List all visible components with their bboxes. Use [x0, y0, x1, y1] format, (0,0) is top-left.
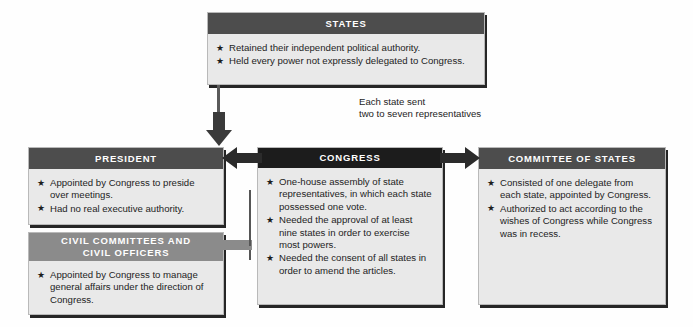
list-item: ★ Appointed by Congress to manage genera… [37, 269, 214, 306]
star-icon: ★ [37, 202, 45, 215]
box-congress-bullet-list: ★ One-house assembly of state representa… [266, 176, 433, 277]
list-item: ★ Appointed by Congress to preside over … [37, 177, 214, 202]
box-states-title: STATES [208, 13, 484, 34]
star-icon: ★ [216, 42, 224, 55]
list-item-text: Needed the approval of at least nine sta… [279, 214, 412, 250]
box-congress: CONGRESS ★ One-house assembly of state r… [257, 147, 443, 305]
box-congress-title: CONGRESS [258, 148, 442, 168]
connector-states-congress-arrow [205, 112, 233, 148]
box-states-body: ★ Retained their independent political a… [208, 34, 484, 77]
box-president: PRESIDENT ★ Appointed by Congress to pre… [28, 147, 224, 225]
box-committee-of-states-body: ★ Consisted of one delegate from each st… [479, 169, 665, 249]
list-item: ★ Consisted of one delegate from each st… [487, 177, 656, 202]
list-item-text: Retained their independent political aut… [229, 42, 420, 53]
star-icon: ★ [266, 176, 274, 189]
box-civil-committees-bullet-list: ★ Appointed by Congress to manage genera… [37, 269, 214, 306]
star-icon: ★ [216, 55, 224, 68]
list-item-text: Appointed by Congress to preside over me… [50, 177, 195, 200]
list-item-text: One-house assembly of state representati… [279, 176, 432, 212]
list-item: ★ Held every power not expressly delegat… [216, 55, 475, 67]
list-item: ★ Had no real executive authority. [37, 203, 214, 215]
list-item-text: Appointed by Congress to manage general … [50, 269, 203, 305]
star-icon: ★ [487, 202, 495, 215]
connector-congress-civil-stub [249, 190, 251, 246]
box-committee-of-states-bullet-list: ★ Consisted of one delegate from each st… [487, 177, 656, 240]
connector-congress-committee-arrow [440, 146, 480, 170]
list-item: ★ Retained their independent political a… [216, 42, 475, 54]
list-item-text: Had no real executive authority. [50, 203, 184, 214]
connector-caption-states-congress: Each state sent two to seven representat… [359, 96, 549, 121]
box-committee-of-states-title: COMMITTEE OF STATES [479, 148, 665, 169]
list-item-text: Held every power not expressly delegated… [229, 55, 465, 66]
star-icon: ★ [37, 269, 45, 282]
diagram-canvas: STATES ★ Retained their independent poli… [0, 0, 693, 327]
connector-congress-civil-arrow [190, 234, 252, 256]
list-item-text: Consisted of one delegate from each stat… [500, 177, 651, 200]
box-committee-of-states: COMMITTEE OF STATES ★ Consisted of one d… [478, 147, 666, 305]
star-icon: ★ [37, 177, 45, 190]
box-congress-body: ★ One-house assembly of state representa… [258, 168, 442, 286]
connector-congress-president-arrow [222, 146, 262, 170]
star-icon: ★ [266, 214, 274, 227]
list-item: ★ Needed the consent of all states in or… [266, 252, 433, 277]
box-states-bullet-list: ★ Retained their independent political a… [216, 42, 475, 68]
box-president-title: PRESIDENT [29, 148, 223, 169]
list-item-text: Needed the consent of all states in orde… [279, 252, 426, 275]
star-icon: ★ [487, 177, 495, 190]
list-item: ★ Needed the approval of at least nine s… [266, 214, 433, 251]
box-states: STATES ★ Retained their independent poli… [207, 12, 485, 85]
list-item: ★ One-house assembly of state representa… [266, 176, 433, 213]
box-president-body: ★ Appointed by Congress to preside over … [29, 169, 223, 224]
box-president-bullet-list: ★ Appointed by Congress to preside over … [37, 177, 214, 215]
box-civil-committees-title-line2: CIVIL OFFICERS [61, 247, 191, 259]
box-civil-committees-title-line1: CIVIL COMMITTEES AND [61, 235, 191, 247]
list-item: ★ Authorized to act according to the wis… [487, 203, 656, 240]
star-icon: ★ [266, 252, 274, 265]
box-civil-committees-body: ★ Appointed by Congress to manage genera… [29, 261, 223, 315]
list-item-text: Authorized to act according to the wishe… [500, 203, 652, 239]
